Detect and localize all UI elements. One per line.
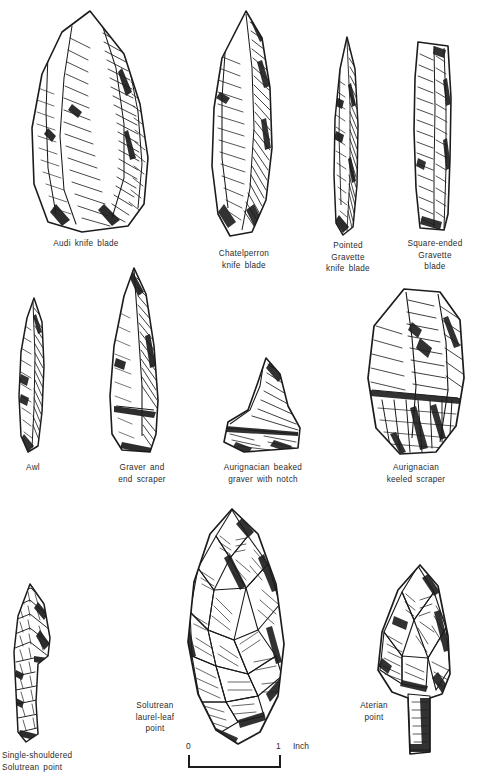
caption-aurignacian-beaked-graver-with-notch: Aurignacian beaked graver with notch [205,462,321,485]
tool-figure-square-ended-gravette-blade [404,38,462,238]
tool-figure-audi-knife-blade [12,8,160,236]
caption-chatelperron-knife-blade: Chatelperron knife blade [190,248,298,271]
caption-graver-and-end-scraper: Graver and end scraper [92,462,192,485]
tool-figure-awl [8,296,58,456]
tool-figure-chatelperron-knife-blade [196,8,292,240]
scale-unit-label: Inch [293,741,309,751]
tool-plate: Audi knife blade [0,0,478,783]
caption-aurignacian-keeled-scraper: Aurignacian keeled scraper [358,462,474,485]
tool-figure-aterian-point [358,562,462,758]
caption-solutrean-laurel-leaf-point: Solutrean laurel-leaf point [118,700,192,735]
tool-figure-graver-and-end-scraper [92,266,178,458]
scale-end-label: 1 [276,741,281,751]
caption-square-ended-gravette-blade: Square-ended Gravette blade [392,238,478,273]
caption-awl: Awl [5,462,61,474]
scale-start-label: 0 [186,741,191,751]
caption-aterian-point: Aterian point [344,700,404,723]
caption-pointed-gravette-knife-blade: Pointed Gravette knife blade [310,240,386,275]
caption-audi-knife-blade: Audi knife blade [12,238,160,250]
tool-figure-pointed-gravette-knife-blade [325,35,369,240]
tool-figure-aurignacian-beaked-graver-with-notch [214,356,308,460]
tool-figure-aurignacian-keeled-scraper [360,286,472,460]
tool-figure-single-shouldered-solutrean-point [4,582,62,746]
caption-single-shouldered-solutrean-point: Single-shouldered Solutrean point [2,750,118,773]
scale-bar-line [188,766,281,768]
